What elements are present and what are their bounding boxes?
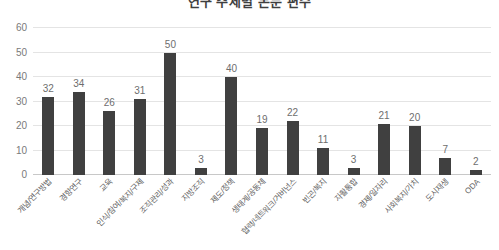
bar-value-label: 40 [226, 63, 237, 74]
y-axis-tick-label: 10 [16, 144, 27, 155]
x-axis-labels: 개념/연구방법경향연구교육인식/참여/복지/구제조직관리/성과지방조직제도/정책… [33, 176, 491, 250]
bar[interactable] [134, 99, 146, 175]
plot-area: 0102030405060 32342631503401922113212072 [33, 28, 491, 175]
bar-value-label: 22 [287, 107, 298, 118]
bar[interactable] [439, 158, 451, 175]
bar-slot: 19 [247, 28, 278, 175]
bar-slot: 21 [369, 28, 400, 175]
bar[interactable] [42, 97, 54, 175]
bar-slot: 31 [125, 28, 156, 175]
bar-value-label: 3 [351, 154, 357, 165]
x-label-slot: 빈곤/복지 [308, 176, 339, 250]
bar[interactable] [73, 92, 85, 175]
y-axis-tick-label: 30 [16, 95, 27, 106]
bar-value-label: 21 [379, 110, 390, 121]
bar-value-label: 7 [442, 144, 448, 155]
bar-slot: 32 [33, 28, 64, 175]
bar-value-label: 31 [134, 85, 145, 96]
bar-slot: 40 [216, 28, 247, 175]
x-label-slot: 사회복지/가치 [399, 176, 430, 250]
x-label-slot: 자활통합 [338, 176, 369, 250]
bar-value-label: 32 [43, 83, 54, 94]
bar-slot: 50 [155, 28, 186, 175]
x-axis-category-label: 경향연구 [59, 178, 84, 203]
bar[interactable] [164, 53, 176, 176]
bar[interactable] [470, 170, 482, 175]
bar[interactable] [256, 128, 268, 175]
bar[interactable] [287, 121, 299, 175]
x-axis-category-label: 자활통합 [334, 178, 359, 203]
x-axis-category-label: 도시재생 [425, 178, 450, 203]
bar-slot: 11 [308, 28, 339, 175]
bar-value-label: 3 [198, 154, 204, 165]
bar-chart: 연구 주제별 논문 편수 0102030405060 3234263150340… [0, 0, 499, 250]
bar[interactable] [195, 168, 207, 175]
bar-slot: 2 [460, 28, 491, 175]
x-label-slot: 조직관리/성과 [155, 176, 186, 250]
y-axis-tick-label: 60 [16, 22, 27, 33]
x-axis-category-label: 교육 [99, 178, 115, 194]
x-label-slot: 인식/참여/복지/구제 [125, 176, 156, 250]
y-axis-tick-label: 20 [16, 120, 27, 131]
bar-series: 32342631503401922113212072 [33, 28, 491, 175]
bar-value-label: 19 [256, 114, 267, 125]
x-axis-category-label: 지방조직 [181, 178, 206, 203]
bar[interactable] [225, 77, 237, 175]
x-label-slot: 협력/네트워크/거버넌스 [277, 176, 308, 250]
bar-value-label: 20 [409, 112, 420, 123]
x-axis-category-label: ODA [463, 178, 481, 196]
bar-slot: 26 [94, 28, 125, 175]
bar[interactable] [378, 124, 390, 175]
y-axis-tick-label: 0 [21, 169, 27, 180]
x-label-slot: 개념/연구방법 [33, 176, 64, 250]
x-label-slot: 경제/일자리 [369, 176, 400, 250]
bar-value-label: 50 [165, 39, 176, 50]
bar-slot: 3 [186, 28, 217, 175]
bar-value-label: 11 [318, 134, 328, 145]
bar[interactable] [409, 126, 421, 175]
chart-title: 연구 주제별 논문 편수 [0, 0, 499, 9]
bar-slot: 20 [399, 28, 430, 175]
y-axis-tick-label: 50 [16, 46, 27, 57]
bar[interactable] [103, 111, 115, 175]
y-axis-tick-label: 40 [16, 71, 27, 82]
x-label-slot: 제도/정책 [216, 176, 247, 250]
bar-slot: 34 [64, 28, 95, 175]
bar[interactable] [317, 148, 329, 175]
bar-value-label: 34 [73, 78, 84, 89]
x-label-slot: 도시재생 [430, 176, 461, 250]
bar-value-label: 26 [104, 97, 115, 108]
x-label-slot: ODA [460, 176, 491, 250]
x-label-slot: 경향연구 [64, 176, 95, 250]
bar-slot: 7 [430, 28, 461, 175]
x-label-slot: 지방조직 [186, 176, 217, 250]
x-axis-category-label: 개념/연구방법 [17, 178, 54, 215]
bar[interactable] [348, 168, 360, 175]
bar-slot: 3 [338, 28, 369, 175]
bar-slot: 22 [277, 28, 308, 175]
bar-value-label: 2 [473, 156, 479, 167]
